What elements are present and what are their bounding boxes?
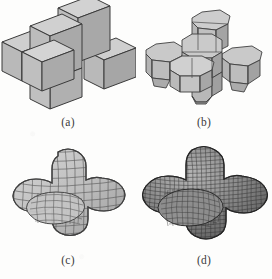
polycube-limit-surface-illustration (136, 140, 272, 258)
panel-caption-c: (c) (0, 254, 136, 267)
polycube-control-mesh-illustration (0, 0, 136, 118)
panel-caption-b: (b) (136, 116, 272, 129)
panel-caption-d: (d) (136, 254, 272, 267)
polycube-subdivision-level3-illustration (0, 140, 136, 258)
panel-caption-a: (a) (0, 116, 136, 129)
figure-panel-b: (b) (136, 0, 272, 139)
figure-panel-a: (a) (0, 0, 136, 139)
polycube-subdivision-level1-illustration (136, 0, 272, 118)
figure-panel-c: (c) (0, 140, 136, 279)
figure-panel-d: (d) (136, 140, 272, 279)
figure-panel-grid: (a) (0, 0, 272, 279)
